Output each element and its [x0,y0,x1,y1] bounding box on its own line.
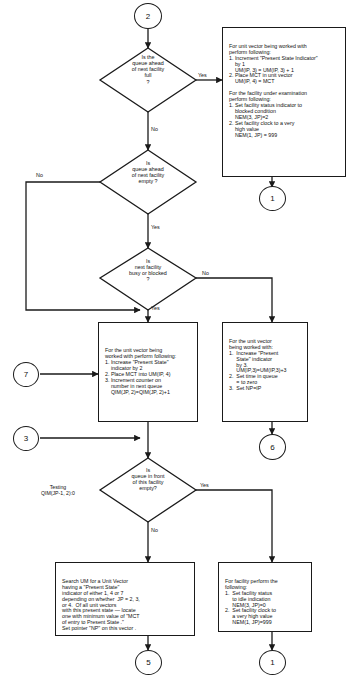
edge-label-frontqueue-no: No [151,527,158,533]
conn-1-bottom[interactable]: 1 [259,650,286,675]
shape-decision-facility-busy [100,248,196,310]
conn-5-bottom-label: 5 [146,658,150,667]
process-search-um: Search UM for a Unit Vector having a "Pr… [55,562,195,636]
flowchart-page: 2 1 7 3 6 5 1 Is the queue ahead of next… [0,0,352,686]
edge-busy-no [196,278,272,322]
decision-queue-front-empty-side-note: Testing QIM(JP-1, 2):0 [22,484,94,496]
edge-label-queuefull-yes: Yes [198,72,207,78]
process-blocked: For unit vector being worked with perfor… [222,27,346,177]
process-facility-idle: For facility perform the following: 1. S… [218,562,312,632]
conn-3-left-label: 3 [24,434,28,443]
process-blocked-text: For unit vector being worked with perfor… [229,44,340,139]
conn-1-bottom-label: 1 [270,658,274,667]
conn-5-bottom[interactable]: 5 [135,650,162,675]
process-search-um-text: Search UM for a Unit Vector having a "Pr… [62,579,189,632]
conn-2-top[interactable]: 2 [134,3,162,29]
conn-1-right-top-label: 1 [270,194,274,203]
process-start-service: For the unit vector being worked with: 1… [222,322,308,422]
conn-7-left-label: 7 [24,370,28,379]
edge-label-queueempty-no: No [36,172,43,178]
shape-decision-queue-empty [100,150,196,214]
process-facility-idle-text: For facility perform the following: 1. S… [225,579,306,626]
edge-label-busy-no: No [202,270,209,276]
shape-decision-queue-front-empty [100,458,196,522]
edge-label-queueempty-yes: Yes [151,224,160,230]
conn-7-left[interactable]: 7 [13,362,39,387]
conn-2-top-label: 2 [146,12,150,21]
conn-6-right-label: 6 [270,443,274,452]
edge-label-frontqueue-yes: Yes [200,482,209,488]
process-start-service-text: For the unit vector being worked with: 1… [229,339,302,392]
process-enqueue-text: For the unit vector being worked with pe… [105,348,176,395]
conn-6-right[interactable]: 6 [259,434,286,460]
process-enqueue: For the unit vector being worked with pe… [98,322,198,422]
conn-3-left[interactable]: 3 [13,426,39,451]
edge-queueempty-no [26,182,140,310]
edge-label-busy-yes: Yes [151,305,160,311]
conn-1-right-top[interactable]: 1 [259,186,286,211]
shape-decision-queue-full [100,48,196,112]
edge-frontqueue-yes [196,490,272,562]
edge-label-queuefull-no: No [151,126,158,132]
